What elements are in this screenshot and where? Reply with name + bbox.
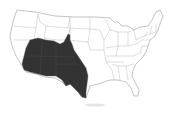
map-shadow	[85, 103, 105, 106]
us-map	[0, 0, 170, 118]
us-map-svg	[0, 0, 170, 118]
